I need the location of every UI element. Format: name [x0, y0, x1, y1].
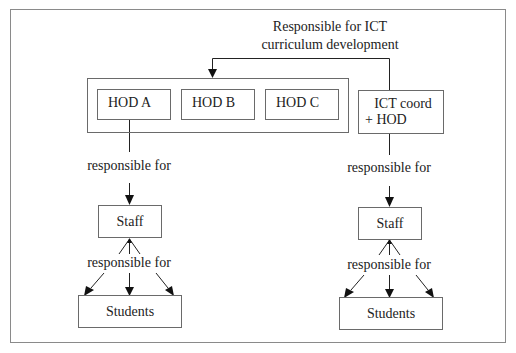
- ict-label-line2: + HOD: [363, 112, 443, 128]
- left-students-label: Students: [106, 304, 154, 319]
- hod-c-box: HOD C: [265, 89, 339, 120]
- left-staff-box: Staff: [98, 205, 162, 238]
- top-label-line1: Responsible for ICT: [230, 18, 430, 36]
- left-relation-1: responsible for: [69, 158, 189, 174]
- hod-a-label: HOD A: [108, 95, 151, 110]
- hod-b-label: HOD B: [192, 95, 235, 110]
- arrowhead-right-staff: [385, 197, 394, 207]
- top-relation-label: Responsible for ICT curriculum developme…: [230, 18, 430, 54]
- left-staff-label: Staff: [117, 214, 144, 229]
- right-relation-1: responsible for: [329, 160, 449, 176]
- right-students-box: Students: [339, 297, 443, 330]
- arrowhead-left-staff: [125, 195, 134, 205]
- arrowhead-top: [208, 69, 217, 78]
- hod-a-box: HOD A: [97, 89, 171, 120]
- left-relation-2: responsible for: [69, 255, 189, 271]
- right-staff-box: Staff: [358, 207, 422, 240]
- ict-coord-box: ICT coord + HOD: [358, 90, 444, 134]
- right-staff-label: Staff: [377, 216, 404, 231]
- ict-label-line1: ICT coord: [363, 96, 443, 112]
- left-students-box: Students: [78, 295, 182, 328]
- right-relation-2: responsible for: [329, 257, 449, 273]
- hod-c-label: HOD C: [276, 95, 319, 110]
- hod-b-box: HOD B: [181, 89, 255, 120]
- right-students-label: Students: [367, 306, 415, 321]
- top-label-line2: curriculum development: [230, 36, 430, 54]
